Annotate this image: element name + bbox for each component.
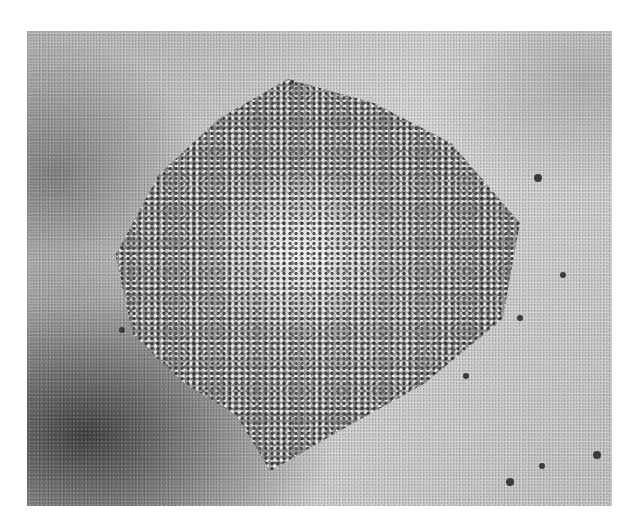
stray-grain [506, 478, 514, 486]
stray-grain [517, 315, 523, 321]
gravel-pile-photo [27, 31, 612, 506]
stray-grain [119, 327, 125, 333]
stray-grain [560, 272, 566, 278]
stray-grain [534, 174, 542, 182]
stray-grain [593, 451, 601, 459]
stray-grain [539, 463, 545, 469]
stray-grain [463, 373, 469, 379]
stray-grain [290, 80, 294, 84]
